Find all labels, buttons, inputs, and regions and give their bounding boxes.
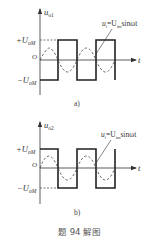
square-wave-uo2 <box>40 149 115 188</box>
origin-label: O <box>32 161 37 169</box>
figure-canvas: uo1 +UoM O −UoM t ui=Uimsinωt a) uo2 +Uo… <box>0 0 161 252</box>
pos-level-label: +UoM <box>16 144 36 155</box>
origin-label: O <box>32 53 37 61</box>
neg-level-label: −UoM <box>17 183 37 194</box>
t-axis-label: t <box>138 55 141 65</box>
annotation-leader <box>96 29 112 54</box>
y-axis-label: uo1 <box>44 7 54 18</box>
t-axis-label: t <box>138 163 141 173</box>
neg-level-label: −UoM <box>17 75 37 86</box>
panel-a: uo1 +UoM O −UoM t ui=Uimsinωt a) <box>16 7 141 108</box>
figure-caption: 题 94 解图 <box>58 227 101 237</box>
annotation-ui-sin: ui=Uimsinωt <box>102 19 138 29</box>
panel-sublabel: b) <box>74 208 81 217</box>
panel-b: uo2 +UoM O −UoM t ui=Uimsinωt b) <box>16 120 141 217</box>
annotation-ui-sin: ui=Uimsinωt <box>101 130 137 140</box>
y-axis-label: uo2 <box>44 120 54 131</box>
annotation-leader <box>96 140 111 163</box>
panel-sublabel: a) <box>74 99 80 108</box>
pos-level-label: +UoM <box>16 35 36 46</box>
